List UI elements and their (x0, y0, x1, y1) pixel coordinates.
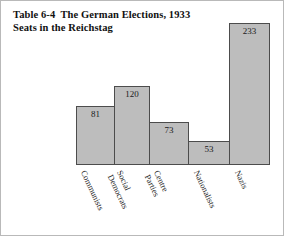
category-label-nazis: Nazis (232, 169, 249, 191)
category-label-nationalists: Nationalists (191, 169, 217, 210)
bar-centre-parties: 73 (149, 122, 189, 165)
category-label-communists: Communists (78, 169, 105, 212)
bar-social-democrats: 120 (114, 86, 150, 165)
bar-chart-plot-area: 81 120 73 53 233 Communists Social Democ… (1, 1, 284, 236)
bar-nazis: 233 (229, 23, 270, 165)
category-label-social-democrats: Social Democrats (106, 169, 139, 210)
category-label-centre-parties: Centre Parties (143, 169, 170, 198)
bar-value-social-democrats: 120 (115, 89, 149, 99)
category-label-nazis-text: Nazis (232, 169, 249, 191)
bar-value-centre-parties: 73 (150, 125, 188, 135)
bar-nationalists: 53 (188, 141, 230, 165)
category-label-nationalists-text: Nationalists (191, 169, 217, 210)
category-label-communists-text: Communists (78, 169, 105, 212)
bar-value-nazis: 233 (230, 26, 269, 36)
figure-container: Table 6-4 The German Elections, 1933 Sea… (0, 0, 284, 236)
bar-communists: 81 (76, 106, 115, 165)
bar-value-nationalists: 53 (189, 144, 229, 154)
bar-value-communists: 81 (77, 109, 114, 119)
